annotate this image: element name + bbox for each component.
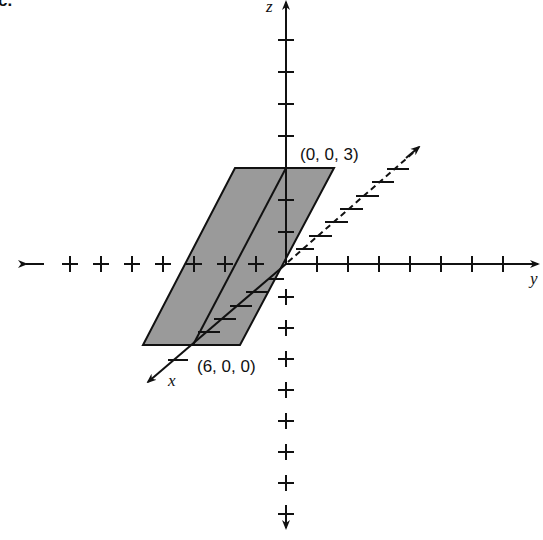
z-axis-label: z (265, 0, 273, 16)
point-label-x-intercept: (6, 0, 0) (197, 357, 256, 376)
coordinate-diagram: c. y z (0, 0, 543, 540)
z-axis-negative (278, 289, 294, 528)
y-axis-positive (286, 256, 538, 272)
plane (143, 168, 334, 345)
point-label-z-intercept: (0, 0, 3) (300, 145, 359, 164)
y-axis-label: y (528, 269, 538, 288)
partial-label: c. (0, 0, 12, 10)
x-axis-label: x (167, 371, 176, 390)
